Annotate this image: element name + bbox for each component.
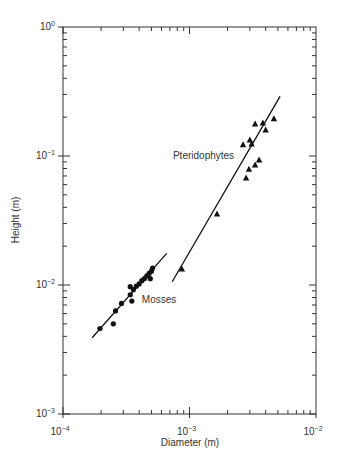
triangle-marker [243, 175, 249, 181]
axis-tick-labels: 10−410−310−210−310−210−1100 [36, 20, 323, 437]
triangle-marker [252, 121, 258, 127]
circle-marker [129, 299, 134, 304]
circle-marker [148, 276, 153, 281]
plot-frame [63, 27, 316, 414]
x-tick-label: 10−3 [177, 425, 196, 437]
x-axis-title: Diameter (m) [161, 437, 219, 448]
series-labels: MossesPteridophytes [142, 150, 234, 305]
series-label-mosses: Mosses [142, 294, 176, 305]
y-tick-label: 10−1 [36, 149, 55, 161]
y-tick-label: 10−3 [36, 407, 55, 419]
x-tick-label: 10−4 [50, 425, 69, 437]
circle-marker [97, 326, 102, 331]
triangle-marker [214, 211, 220, 217]
circle-marker [150, 266, 155, 271]
circle-marker [111, 321, 116, 326]
series-label-pteridophytes: Pteridophytes [173, 150, 234, 161]
circle-marker [119, 301, 124, 306]
loglog-scatter-chart: 10−410−310−210−310−210−1100 MossesPterid… [0, 0, 339, 465]
triangle-marker [262, 127, 268, 133]
y-axis-title: Height (m) [10, 197, 21, 244]
triangle-marker [271, 115, 277, 121]
triangle-marker [246, 166, 252, 172]
triangle-marker [240, 141, 246, 147]
y-tick-label: 10−2 [36, 278, 55, 290]
circle-marker [113, 308, 118, 313]
axis-ticks [58, 27, 316, 418]
triangle-marker [256, 157, 262, 163]
y-tick-label: 100 [40, 20, 55, 32]
x-tick-label: 10−2 [303, 425, 322, 437]
circle-marker [128, 292, 133, 297]
plot-border [63, 27, 316, 414]
